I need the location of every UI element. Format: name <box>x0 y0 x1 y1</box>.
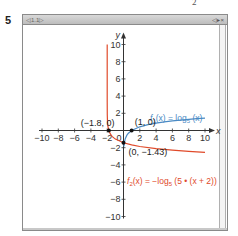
x-tick-label: 10 <box>200 133 210 143</box>
marked-point <box>122 141 126 145</box>
point-annotation: (−1.8, 0) <box>81 118 115 128</box>
y-tick-label: −4 <box>110 160 120 170</box>
x-axis-label: x <box>215 126 221 136</box>
x-tick-label: −8 <box>53 133 63 143</box>
point-annotation: (0, −1.43) <box>129 147 168 157</box>
y-tick-label: 4 <box>115 91 120 101</box>
x-tick-label: 6 <box>170 133 175 143</box>
y-tick-label: −8 <box>110 194 120 204</box>
marked-point <box>107 129 111 133</box>
x-tick-label: −6 <box>69 133 79 143</box>
y-tick-label: 10 <box>110 40 120 50</box>
series-2-label: f2(x) = −log5 (5 • (x + 2)) <box>127 176 217 187</box>
y-tick-label: 6 <box>115 74 120 84</box>
y-axis-arrow-icon <box>121 33 126 39</box>
x-tick-label: 4 <box>154 133 159 143</box>
y-tick-label: −6 <box>110 177 120 187</box>
y-tick-label: 2 <box>115 108 120 118</box>
y-axis-label: y <box>115 30 121 40</box>
x-tick-label: −10 <box>34 133 49 143</box>
marked-point <box>130 129 134 133</box>
point-annotation: (1, 0) <box>135 117 156 127</box>
x-tick-label: 2 <box>137 133 142 143</box>
y-tick-label: −2 <box>110 143 120 153</box>
y-tick-label: −10 <box>105 212 120 222</box>
x-tick-label: −4 <box>86 133 96 143</box>
function-graph: xy−10−8−6−4−2246810108642−2−4−6−8−100f1(… <box>0 0 238 236</box>
y-tick-label: 8 <box>115 57 120 67</box>
x-tick-label: 8 <box>186 133 191 143</box>
series-1-label: f1(x) = log5 (x) <box>150 113 202 124</box>
